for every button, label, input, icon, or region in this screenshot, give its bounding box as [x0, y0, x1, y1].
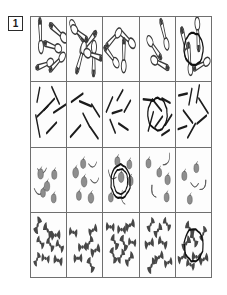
spoon-shape-layer [103, 17, 138, 81]
rod-shape-layer [140, 82, 175, 146]
grid-cell-r1-c3[interactable] [103, 17, 139, 82]
bowtie-shape-layer [103, 213, 138, 277]
rod-shape-layer [67, 82, 102, 146]
bowtie-shape-layer [176, 213, 211, 277]
rod-shape-layer [176, 82, 211, 146]
grid-cell-r4-c5[interactable] [176, 213, 212, 278]
stimulus-grid [30, 16, 212, 278]
figure-page: 1 [0, 0, 227, 295]
spoon-shape-layer [67, 17, 102, 81]
grid-cell-r1-c4[interactable] [140, 17, 176, 82]
grid-cell-r2-c4[interactable] [140, 82, 176, 147]
fruit-shape-layer [176, 148, 211, 212]
grid-cell-r3-c3[interactable] [103, 148, 139, 213]
rod-shape-layer [103, 82, 138, 146]
grid-cell-r3-c5[interactable] [176, 148, 212, 213]
spoon-shape-layer [31, 17, 66, 81]
grid-cell-r4-c1[interactable] [31, 213, 67, 278]
fruit-shape-layer [140, 148, 175, 212]
grid-cell-r1-c2[interactable] [67, 17, 103, 82]
figure-number-badge: 1 [8, 16, 23, 31]
grid-cell-r3-c2[interactable] [67, 148, 103, 213]
rod-shape-layer [31, 82, 66, 146]
bowtie-shape-layer [31, 213, 66, 277]
grid-cell-r1-c1[interactable] [31, 17, 67, 82]
grid-cell-r2-c1[interactable] [31, 82, 67, 147]
fruit-shape-layer [103, 148, 138, 212]
grid-cell-r3-c4[interactable] [140, 148, 176, 213]
bowtie-shape-layer [140, 213, 175, 277]
grid-cell-r4-c2[interactable] [67, 213, 103, 278]
fruit-shape-layer [31, 148, 66, 212]
spoon-shape-layer [140, 17, 175, 81]
grid-cell-r4-c4[interactable] [140, 213, 176, 278]
grid-cell-r2-c3[interactable] [103, 82, 139, 147]
spoon-shape-layer [176, 17, 211, 81]
grid-cell-r1-c5[interactable] [176, 17, 212, 82]
fruit-shape-layer [67, 148, 102, 212]
figure-number-text: 1 [13, 19, 19, 29]
grid-cell-r3-c1[interactable] [31, 148, 67, 213]
grid-cell-r2-c2[interactable] [67, 82, 103, 147]
bowtie-shape-layer [67, 213, 102, 277]
grid-cell-r2-c5[interactable] [176, 82, 212, 147]
grid-cell-r4-c3[interactable] [103, 213, 139, 278]
